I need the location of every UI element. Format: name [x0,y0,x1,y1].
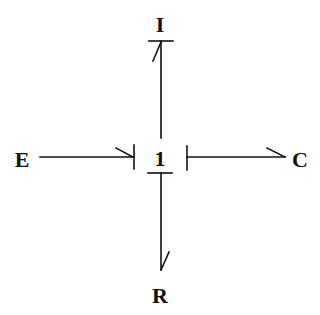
node-E-label: E [15,147,30,172]
bond-E-to-1 [40,145,134,169]
node-1-label: 1 [155,146,166,171]
node-R-label: R [152,283,169,308]
half-arrow [267,148,285,157]
bond-1-to-R [148,173,172,270]
half-arrow [153,42,161,61]
bond-graph-diagram: I E 1 C R [0,0,320,315]
half-arrow [161,252,169,270]
node-C-label: C [292,147,308,172]
half-arrow [116,148,133,157]
bond-1-to-I [149,41,173,138]
bond-1-to-C [187,146,285,170]
node-I-label: I [156,12,165,37]
